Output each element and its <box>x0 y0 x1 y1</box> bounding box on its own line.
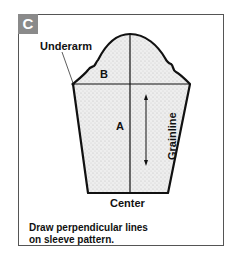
underarm-leader-line <box>62 52 73 83</box>
center-label: Center <box>110 197 145 209</box>
label-b: B <box>100 68 108 80</box>
grainline-label: Grainline <box>166 112 178 160</box>
underarm-point <box>71 82 74 85</box>
label-a: A <box>116 120 124 132</box>
caption-line-2: on sleeve pattern. <box>29 234 209 246</box>
caption-line-1: Draw perpendicular lines <box>29 222 209 234</box>
underarm-label: Underarm <box>40 40 92 52</box>
caption: Draw perpendicular lines on sleeve patte… <box>29 222 209 246</box>
